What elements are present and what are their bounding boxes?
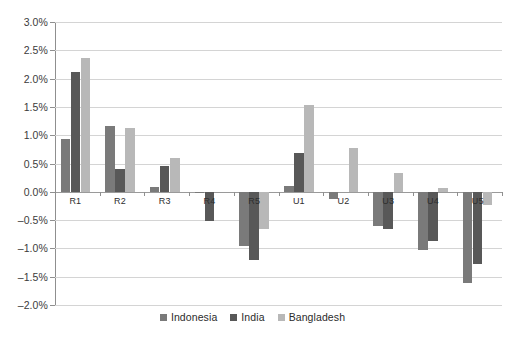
x-axis-tick-mark xyxy=(368,192,369,196)
y-axis-tick-label: –2.0% xyxy=(18,299,48,311)
x-axis-tick-mark xyxy=(279,192,280,196)
bar xyxy=(195,192,205,193)
bar xyxy=(294,153,304,191)
bar xyxy=(483,192,493,205)
x-axis-category-label: U4 xyxy=(427,196,439,206)
x-axis-category-label: R2 xyxy=(114,196,126,206)
legend-item[interactable]: Bangladesh xyxy=(278,311,345,323)
bar xyxy=(394,173,404,192)
bar xyxy=(438,188,448,192)
bar-group xyxy=(239,22,269,305)
bar-group xyxy=(373,22,403,305)
bar-group xyxy=(150,22,180,305)
x-axis-tick-mark xyxy=(55,192,56,196)
plot-area xyxy=(55,22,502,305)
x-axis-category-label: U2 xyxy=(338,196,350,206)
bar xyxy=(304,105,314,192)
y-axis-tick-label: 1.5% xyxy=(24,101,48,113)
y-axis-tick-label: 1.0% xyxy=(24,129,48,141)
bar-group xyxy=(61,22,91,305)
bar xyxy=(349,148,359,192)
bar xyxy=(81,58,91,192)
legend-swatch-icon xyxy=(278,314,285,321)
x-axis-category-label: R4 xyxy=(203,196,215,206)
y-axis-tick-label: –0.5% xyxy=(18,214,48,226)
y-axis-tick-label: –1.0% xyxy=(18,242,48,254)
x-axis-category-label: U1 xyxy=(293,196,305,206)
y-axis-tick-label: 2.5% xyxy=(24,44,48,56)
bar xyxy=(284,186,294,192)
x-axis-tick-mark xyxy=(234,192,235,196)
y-axis-tick-label: 3.0% xyxy=(24,16,48,28)
bar xyxy=(170,158,180,191)
bar xyxy=(115,169,125,192)
y-axis-labels: 3.0%2.5%2.0%1.5%1.0%0.5%0.0%–0.5%–1.0%–1… xyxy=(0,22,48,305)
bar xyxy=(105,126,115,192)
bar xyxy=(259,192,269,229)
legend-item[interactable]: India xyxy=(230,311,264,323)
y-axis-tick-label: 0.0% xyxy=(24,186,48,198)
bar-group xyxy=(329,22,359,305)
legend-label: India xyxy=(241,311,264,323)
x-axis-tick-mark xyxy=(457,192,458,196)
x-axis-tick-mark xyxy=(100,192,101,196)
x-axis-category-label: R1 xyxy=(69,196,81,206)
x-axis-tick-mark xyxy=(413,192,414,196)
x-axis-tick-mark xyxy=(502,192,503,196)
bar-group xyxy=(105,22,135,305)
gridline xyxy=(55,305,502,306)
x-axis-tick-mark xyxy=(144,192,145,196)
x-axis-category-label: U5 xyxy=(472,196,484,206)
y-axis-tick-label: 0.5% xyxy=(24,158,48,170)
x-axis-tick-mark xyxy=(323,192,324,196)
legend-item[interactable]: Indonesia xyxy=(160,311,217,323)
x-axis-category-label: U3 xyxy=(382,196,394,206)
legend-label: Indonesia xyxy=(171,311,217,323)
bar xyxy=(61,139,71,192)
legend-label: Bangladesh xyxy=(289,311,345,323)
legend-swatch-icon xyxy=(230,314,237,321)
bar-group xyxy=(418,22,448,305)
bar xyxy=(150,187,160,192)
bar-group xyxy=(284,22,314,305)
legend-swatch-icon xyxy=(160,314,167,321)
x-axis-tick-mark xyxy=(189,192,190,196)
bar xyxy=(160,166,170,192)
x-axis-category-label: R5 xyxy=(248,196,260,206)
x-axis-category-label: R3 xyxy=(159,196,171,206)
bar xyxy=(71,72,81,192)
bar-group xyxy=(195,22,225,305)
bar-chart: 3.0%2.5%2.0%1.5%1.0%0.5%0.0%–0.5%–1.0%–1… xyxy=(0,0,505,340)
bar-group xyxy=(463,22,493,305)
bar xyxy=(125,128,135,192)
y-axis-tick-label: 2.0% xyxy=(24,73,48,85)
chart-legend: IndonesiaIndiaBangladesh xyxy=(0,311,505,323)
y-axis-tick-label: –1.5% xyxy=(18,271,48,283)
